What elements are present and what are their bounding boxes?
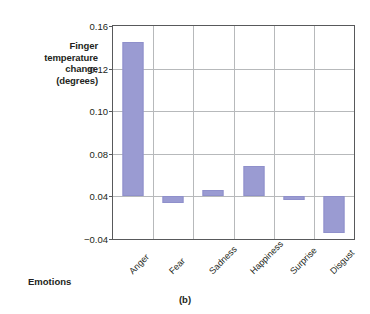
y-tick-label: 0.08: [90, 148, 114, 159]
y-axis-title-line-3: change: [18, 63, 98, 75]
panel-caption: (b): [0, 294, 370, 305]
bar-slot: [274, 26, 314, 239]
plot-area: 0.160.120.100.080.04−0.04AngerFearSadnes…: [112, 25, 355, 240]
bar-slot: [153, 26, 193, 239]
x-tick-label-anger: Anger: [127, 252, 151, 276]
bar-anger[interactable]: [123, 42, 144, 196]
x-tick-label-surprise: Surprise: [288, 245, 319, 276]
bar-slot: [314, 26, 354, 239]
y-axis-title-line-2: temperature: [18, 52, 98, 64]
x-tick-label-fear: Fear: [167, 256, 187, 276]
x-tick-label-disgust: Disgust: [328, 248, 356, 276]
bar-chart-figure: Finger temperature change (degrees) 0.16…: [0, 0, 370, 314]
y-axis-title: Finger temperature change (degrees): [18, 40, 98, 86]
bar-slot: [193, 26, 233, 239]
x-tick-label-happiness: Happiness: [248, 239, 285, 276]
bar-slot: [113, 26, 153, 239]
bar-disgust[interactable]: [323, 196, 344, 233]
bar-sadness[interactable]: [203, 190, 224, 196]
bar-surprise[interactable]: [283, 196, 304, 199]
y-tick-label: 0.12: [90, 63, 114, 74]
x-axis-title: Emotions: [28, 276, 71, 287]
y-axis-title-line-4: (degrees): [18, 75, 98, 87]
y-tick-label: 0.16: [90, 21, 114, 32]
bar-slot: [234, 26, 274, 239]
y-axis-title-line-1: Finger: [18, 40, 98, 52]
bar-happiness[interactable]: [243, 166, 264, 197]
y-tick-label: 0.10: [90, 106, 114, 117]
bar-fear[interactable]: [163, 196, 184, 202]
x-tick-label-sadness: Sadness: [207, 244, 239, 276]
y-tick-label: −0.04: [84, 234, 113, 245]
y-tick-label: 0.04: [90, 191, 114, 202]
